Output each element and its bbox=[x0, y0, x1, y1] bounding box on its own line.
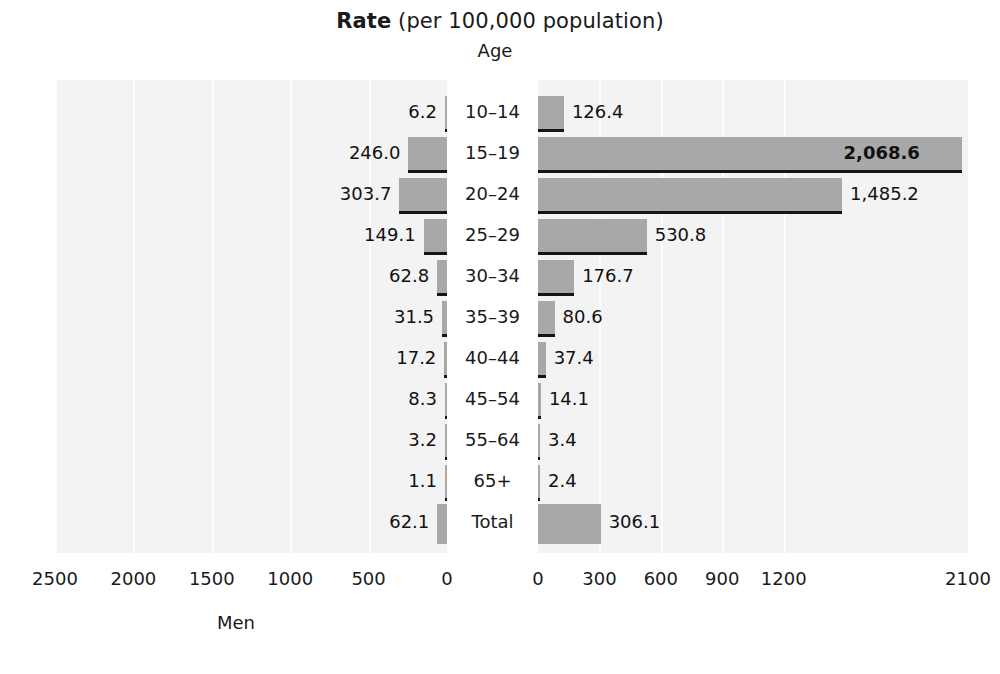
bar-separator bbox=[538, 375, 546, 378]
axis-tick-women: 300 bbox=[582, 568, 616, 590]
chart-title-light: (per 100,000 population) bbox=[391, 9, 663, 33]
value-label-women: 176.7 bbox=[582, 265, 634, 287]
axis-tick-men: 500 bbox=[351, 568, 385, 590]
bar-separator bbox=[442, 334, 447, 337]
value-label-men: 62.8 bbox=[389, 265, 429, 287]
value-label-men: 246.0 bbox=[349, 142, 401, 164]
value-label-women: 306.1 bbox=[609, 511, 661, 533]
chart-row: 6.210–14126.4 bbox=[0, 94, 1000, 135]
value-label-men: 31.5 bbox=[394, 306, 434, 328]
bar-separator bbox=[445, 457, 447, 460]
age-group-label: 30–34 bbox=[447, 265, 538, 287]
age-column-header: Age bbox=[440, 40, 550, 61]
bar-separator bbox=[538, 457, 540, 460]
axis-tick-men: 1000 bbox=[267, 568, 313, 590]
value-label-women: 530.8 bbox=[655, 224, 707, 246]
chart-row: 62.1Total306.1 bbox=[0, 504, 1000, 545]
value-label-men: 6.2 bbox=[408, 101, 437, 123]
bar-separator bbox=[538, 252, 647, 255]
axis-tick-women: 2100 bbox=[945, 568, 991, 590]
bar-separator bbox=[538, 170, 962, 173]
bar-separator bbox=[408, 170, 447, 173]
age-group-label: 25–29 bbox=[447, 224, 538, 246]
bar-separator bbox=[538, 293, 574, 296]
chart-row: 17.240–4437.4 bbox=[0, 340, 1000, 381]
axis-tick-men: 2500 bbox=[32, 568, 78, 590]
age-group-label: 65+ bbox=[447, 470, 538, 492]
age-group-label: 15–19 bbox=[447, 142, 538, 164]
chart-row: 1.165+2.4 bbox=[0, 463, 1000, 504]
age-group-label: 20–24 bbox=[447, 183, 538, 205]
value-label-women: 1,485.2 bbox=[850, 183, 919, 205]
axis-tick-men: 1500 bbox=[189, 568, 235, 590]
axis-tick-women: 1200 bbox=[761, 568, 807, 590]
bar-separator bbox=[445, 416, 447, 419]
value-label-women: 14.1 bbox=[549, 388, 589, 410]
bar-men bbox=[408, 137, 447, 170]
bar-separator bbox=[399, 211, 447, 214]
value-label-men: 8.3 bbox=[408, 388, 437, 410]
value-label-men: 303.7 bbox=[340, 183, 392, 205]
value-label-women: 126.4 bbox=[572, 101, 624, 123]
bar-women bbox=[538, 219, 647, 252]
bar-separator bbox=[445, 498, 447, 501]
age-group-label: 45–54 bbox=[447, 388, 538, 410]
age-group-label: 10–14 bbox=[447, 101, 538, 123]
chart-row: 3.255–643.4 bbox=[0, 422, 1000, 463]
axis-title-men: Men bbox=[217, 612, 255, 634]
chart-row: 149.125–29530.8 bbox=[0, 217, 1000, 258]
value-label-women: 2,068.6 bbox=[844, 142, 920, 164]
bar-women bbox=[538, 465, 540, 498]
chart-title-strong: Rate bbox=[336, 9, 391, 33]
chart-row: 62.830–34176.7 bbox=[0, 258, 1000, 299]
axis-tick-men: 2000 bbox=[110, 568, 156, 590]
bar-separator bbox=[538, 129, 564, 132]
age-group-label: 40–44 bbox=[447, 347, 538, 369]
bar-women bbox=[538, 424, 540, 457]
bar-separator bbox=[445, 129, 447, 132]
chart-row: 303.720–241,485.2 bbox=[0, 176, 1000, 217]
bar-separator bbox=[424, 252, 447, 255]
value-label-women: 37.4 bbox=[554, 347, 594, 369]
bar-women bbox=[538, 260, 574, 293]
bar-separator bbox=[437, 293, 447, 296]
value-label-women: 2.4 bbox=[548, 470, 577, 492]
chart-title: Rate (per 100,000 population) bbox=[0, 8, 1000, 34]
axis-tick-women: 0 bbox=[532, 568, 543, 590]
chart-row: 8.345–5414.1 bbox=[0, 381, 1000, 422]
value-label-women: 3.4 bbox=[548, 429, 577, 451]
value-label-men: 1.1 bbox=[408, 470, 437, 492]
bar-separator bbox=[538, 211, 842, 214]
bar-men bbox=[424, 219, 447, 252]
bar-separator bbox=[538, 334, 555, 337]
age-group-label: 35–39 bbox=[447, 306, 538, 328]
bar-men bbox=[437, 504, 447, 544]
bar-women bbox=[538, 178, 842, 211]
bar-women bbox=[538, 383, 541, 416]
age-group-label: Total bbox=[447, 511, 538, 533]
bar-women bbox=[538, 96, 564, 129]
axis-tick-women: 900 bbox=[705, 568, 739, 590]
bar-separator bbox=[444, 375, 447, 378]
chart-row: 246.015–192,068.6 bbox=[0, 135, 1000, 176]
age-group-label: 55–64 bbox=[447, 429, 538, 451]
chart-row: 31.535–3980.6 bbox=[0, 299, 1000, 340]
bar-men bbox=[399, 178, 447, 211]
bar-men bbox=[437, 260, 447, 293]
bar-women bbox=[538, 301, 555, 334]
value-label-men: 3.2 bbox=[408, 429, 437, 451]
value-label-men: 17.2 bbox=[396, 347, 436, 369]
axis-tick-women: 600 bbox=[644, 568, 678, 590]
bar-separator bbox=[538, 498, 540, 501]
bar-separator bbox=[538, 416, 541, 419]
bar-women bbox=[538, 342, 546, 375]
value-label-men: 149.1 bbox=[364, 224, 416, 246]
rate-pyramid-chart: Rate (per 100,000 population) Age 6.210–… bbox=[0, 0, 1000, 674]
axis-tick-men: 0 bbox=[441, 568, 452, 590]
value-label-men: 62.1 bbox=[389, 511, 429, 533]
bar-women bbox=[538, 504, 601, 544]
value-label-women: 80.6 bbox=[563, 306, 603, 328]
